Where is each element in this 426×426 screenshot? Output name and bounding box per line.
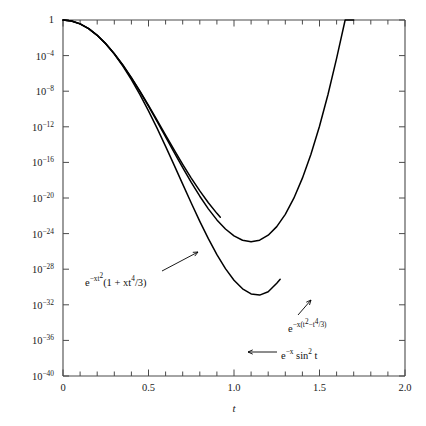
y-tick-label: 10−36 [32, 334, 54, 347]
x-tick-label: 1.0 [227, 383, 240, 394]
x-tick-label: 2.0 [398, 383, 411, 394]
curve-1 [63, 20, 354, 242]
axis-ticks [63, 20, 405, 376]
plot-canvas [0, 0, 426, 426]
y-tick-label: 10−12 [32, 120, 54, 133]
y-tick-label: 10−20 [32, 192, 54, 205]
y-tick-label: 10−28 [32, 263, 54, 276]
curve-3 [63, 20, 220, 217]
annotation-curve-3: e−x sin2 t [281, 348, 318, 361]
semilog-plot-figure: 110−410−810−1210−1610−2010−2410−2810−321… [0, 0, 426, 426]
x-tick-label: 0 [60, 383, 65, 394]
curve-2 [63, 20, 280, 295]
y-tick-label: 10−24 [32, 227, 54, 240]
curves-group [63, 20, 354, 295]
x-tick-label: 0.5 [142, 383, 155, 394]
y-tick-label: 10−8 [36, 85, 54, 98]
annotation-curve-2: e−x(t2−t4/3) [288, 318, 326, 334]
x-tick-label: 1.5 [313, 383, 326, 394]
y-tick-label: 10−16 [32, 156, 54, 169]
x-axis-title: t [232, 402, 235, 414]
y-tick-label: 10−4 [36, 49, 54, 62]
y-tick-label: 1 [49, 15, 54, 26]
annotation-leader-lines [162, 252, 311, 354]
annotation-curve-2-leader [298, 300, 311, 315]
annotation-curve-1-leader [162, 252, 198, 271]
axes-frame [63, 20, 405, 376]
annotation-curve-1: e−xt2(1 + xt4/3) [85, 272, 147, 288]
y-tick-label: 10−40 [32, 370, 54, 383]
y-tick-label: 10−32 [32, 298, 54, 311]
